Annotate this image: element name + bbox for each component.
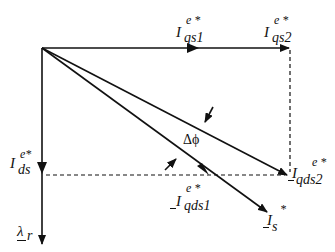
iqs2-main: I [264, 24, 269, 40]
label-ids: I e* ds [10, 156, 15, 171]
iqds1-sub: qds1 [184, 199, 210, 213]
label-iqds1: I e * qds1 [176, 194, 181, 209]
iqds2-sup: e * [312, 156, 326, 168]
iqs2-sup: e * [274, 14, 288, 26]
delta-phi-arrow-top [205, 107, 213, 122]
lambda-sub: r [27, 229, 32, 243]
ids-sup: e* [20, 148, 31, 160]
iqds2-underbar [288, 180, 294, 181]
iqds2-sub: qds2 [296, 173, 322, 187]
iqs1-sub: qs1 [184, 31, 203, 45]
iqds1-main: I [176, 193, 181, 209]
iqds1-sup: e * [186, 182, 200, 194]
label-iqs2: I e * qs2 [264, 25, 269, 40]
is-underbar [263, 227, 269, 228]
iqs1-main: I [176, 24, 181, 40]
iqds2-vector [42, 48, 287, 175]
ids-arrowhead-icon [37, 162, 47, 174]
is-sub: s [272, 220, 277, 234]
iqds1-underbar [170, 208, 176, 209]
lambda-main: λ [17, 223, 24, 239]
ids-sub: ds [18, 163, 30, 177]
label-iqds2: I e * qds2 [292, 166, 297, 181]
label-is: I * s [267, 213, 272, 228]
label-delta-phi: Δϕ [183, 133, 199, 147]
lambda-underbar [17, 240, 26, 241]
is-sup: * [280, 203, 286, 215]
label-lambda-r: λ r [17, 224, 24, 239]
delta-phi-arrow-bottom [165, 159, 176, 170]
ids-main: I [10, 155, 15, 171]
label-iqs1: I e * qs1 [176, 25, 181, 40]
iqs2-sub: qs2 [272, 31, 291, 45]
iqs1-sup: e * [186, 14, 200, 26]
is-vector [42, 48, 267, 212]
